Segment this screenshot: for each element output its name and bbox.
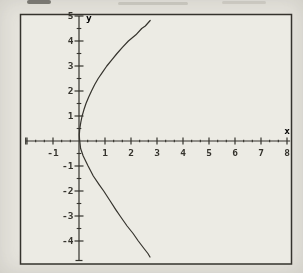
- y-tick-label: -4: [62, 235, 74, 246]
- plot-frame: [21, 15, 292, 265]
- x-tick-label: 1: [102, 147, 108, 158]
- x-tick-label: 5: [206, 147, 212, 158]
- x-tick-label: 4: [180, 147, 186, 158]
- y-tick-label: 4: [68, 35, 74, 46]
- x-tick-label: 2: [128, 147, 134, 158]
- x-axis-label: x: [284, 125, 290, 136]
- y-axis-label: y: [86, 12, 92, 23]
- y-tick-label: 3: [68, 60, 74, 71]
- y-tick-label: 5: [68, 10, 74, 21]
- y-tick-label: 1: [68, 110, 74, 121]
- x-tick-label: 6: [232, 147, 238, 158]
- y-tick-label: -3: [62, 210, 74, 221]
- y-tick-label: -1: [62, 160, 74, 171]
- x-tick-label: 8: [284, 147, 290, 158]
- x-tick-label: 3: [154, 147, 160, 158]
- y-tick-label: -2: [62, 185, 73, 196]
- scanned-figure: -11234567854321-1-2-3-4 x y: [0, 0, 303, 273]
- x-tick-label: 7: [258, 147, 264, 158]
- x-tick-label: -1: [47, 147, 59, 158]
- parabola-graph: -11234567854321-1-2-3-4 x y: [0, 0, 303, 273]
- y-tick-label: 2: [68, 85, 74, 96]
